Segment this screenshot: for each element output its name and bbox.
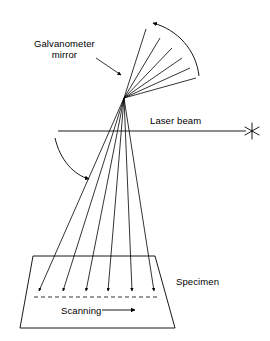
scan-ray — [124, 98, 154, 291]
laser-source-asterisk-icon — [245, 123, 259, 139]
galvanometer-mirror-label: Galvanometer mirror — [34, 38, 95, 60]
upper-ray — [124, 48, 172, 98]
galvanometer-leader-arrow-icon — [96, 58, 121, 75]
upper-ray — [124, 58, 182, 98]
scan-ray — [108, 98, 124, 291]
laser-beam-label: Laser beam — [150, 115, 201, 126]
galvanometer-mirror-label-line2: mirror — [34, 49, 95, 60]
specimen-label: Specimen — [176, 276, 219, 287]
upper-ray — [124, 68, 190, 98]
scan-ray — [86, 98, 124, 291]
galvanometer-mirror-label-line1: Galvanometer — [34, 38, 95, 49]
upper-ray — [124, 38, 160, 98]
scanning-diagram-figure: Galvanometer mirror Laser beam Specimen … — [0, 0, 270, 341]
upper-ray — [124, 78, 196, 98]
scan-ray — [124, 98, 132, 291]
scan-ray — [63, 98, 124, 291]
scanning-label: Scanning — [61, 305, 101, 316]
mirror-rotation-lower-arc-icon — [55, 138, 89, 179]
specimen-plane — [20, 256, 175, 328]
scan-ray — [39, 98, 124, 291]
mirror-rotation-upper-arc-icon — [153, 23, 199, 76]
lower-ray-fan — [39, 98, 154, 291]
upper-ray-fan — [124, 29, 196, 98]
upper-ray — [124, 29, 146, 98]
